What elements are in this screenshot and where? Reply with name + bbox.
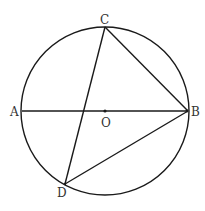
point-b [186, 110, 189, 113]
segment-cb [105, 27, 188, 111]
label-a: A [9, 105, 19, 119]
label-d: D [57, 186, 67, 200]
point-d [64, 183, 66, 185]
label-o: O [101, 116, 111, 130]
label-c: C [100, 13, 109, 27]
label-b: B [191, 105, 200, 119]
center-point-o [103, 109, 106, 112]
diagram-canvas: C A B O D [0, 0, 205, 211]
segment-db [65, 111, 188, 184]
segment-cd [65, 27, 105, 184]
geometry-diagram: C A B O D [0, 0, 205, 211]
